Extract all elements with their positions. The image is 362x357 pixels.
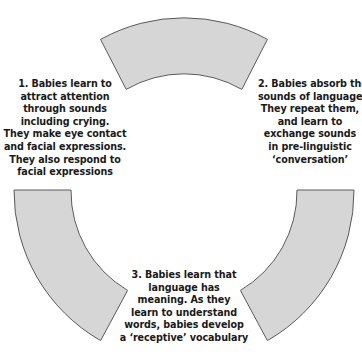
step-1-line: including crying. [2, 116, 128, 129]
arc-segment-bottom-right [240, 190, 354, 341]
step-3-line: meaning. As they [116, 294, 252, 307]
step-2-line: and learn to [258, 116, 362, 129]
step-2-line: They repeat them, [258, 103, 362, 116]
step-2-line: ‘conversation’ [258, 154, 362, 167]
step-1-line: attract attention [2, 91, 128, 104]
step-1-line: facial expressions [2, 166, 128, 179]
step-3-line: learn to understand [116, 307, 252, 320]
step-3-text: 3. Babies learn that language has meanin… [116, 269, 252, 345]
language-development-cycle-diagram: 1. Babies learn to attract attention thr… [0, 0, 362, 357]
step-3-line: 3. Babies learn that [116, 269, 252, 282]
step-3-line: a ‘receptive’ vocabulary [116, 332, 252, 345]
arc-segment-bottom-left [14, 190, 128, 341]
step-3-line: words, babies develop [116, 319, 252, 332]
step-1-line: They make eye contact [2, 128, 128, 141]
step-2-line: 2. Babies absorb the [258, 78, 362, 91]
step-2-line: in pre-linguistic [258, 141, 362, 154]
step-2-line: exchange sounds [258, 128, 362, 141]
step-1-text: 1. Babies learn to attract attention thr… [2, 78, 128, 179]
step-1-line: through sounds [2, 103, 128, 116]
step-1-line: and facial expressions. [2, 141, 128, 154]
step-1-line: 1. Babies learn to [2, 78, 128, 91]
step-2-line: sounds of language. [258, 91, 362, 104]
step-3-line: language has [116, 282, 252, 295]
step-1-line: They also respond to [2, 154, 128, 167]
step-2-text: 2. Babies absorb the sounds of language.… [258, 78, 362, 166]
